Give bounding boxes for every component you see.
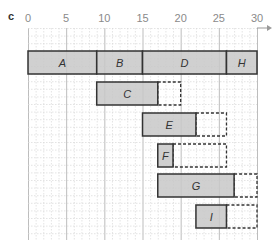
task-label: H <box>238 57 246 69</box>
x-tick-label: 10 <box>98 12 110 24</box>
slack-bar <box>196 113 227 136</box>
x-tick-label: 15 <box>136 12 148 24</box>
task-label: E <box>166 119 174 131</box>
task-label: B <box>116 57 123 69</box>
axis-arrow-icon <box>267 25 272 31</box>
x-tick-label: 30 <box>251 12 263 24</box>
task-label: D <box>181 57 189 69</box>
task-label: G <box>192 180 201 192</box>
slack-bar <box>234 174 257 197</box>
slack-bar <box>158 82 181 105</box>
x-tick-label: 20 <box>175 12 187 24</box>
task-label: I <box>210 211 213 223</box>
x-tick-label: 5 <box>63 12 69 24</box>
task-label: C <box>123 88 131 100</box>
x-tick-label: 25 <box>213 12 225 24</box>
gantt-chart: 051015202530ABDHCEFGI <box>0 0 276 251</box>
slack-bar <box>226 205 257 228</box>
task-label: A <box>58 57 66 69</box>
x-tick-label: 0 <box>25 12 31 24</box>
